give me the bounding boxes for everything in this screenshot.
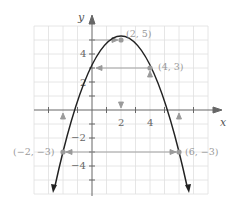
y-axis-label: y bbox=[77, 11, 85, 24]
arrow-right-icon bbox=[170, 150, 176, 155]
point-6-neg3 bbox=[176, 149, 181, 154]
arrow-left-icon bbox=[96, 66, 102, 71]
point-4-3 bbox=[147, 65, 152, 70]
parabola-graph: x y 2 4 4 2 −2 −4 (2, 5) (4, 3) (− bbox=[0, 0, 233, 203]
point-label: (6, −3) bbox=[185, 146, 219, 157]
x-tick-label: 4 bbox=[147, 117, 153, 128]
x-tick-label: 2 bbox=[118, 117, 124, 128]
arrow-up-icon bbox=[148, 71, 153, 77]
point-neg2-neg3 bbox=[60, 149, 65, 154]
y-tick-label: −2 bbox=[71, 132, 86, 143]
x-axis-label: x bbox=[220, 116, 227, 129]
y-axis-arrow-icon bbox=[89, 15, 95, 24]
point-label: (−2, −3) bbox=[13, 146, 54, 157]
curve-arrow-down-icon bbox=[51, 184, 57, 193]
arrow-up-icon bbox=[177, 113, 182, 119]
point-label: (2, 5) bbox=[126, 28, 152, 39]
arrow-left-icon bbox=[66, 150, 72, 155]
point-2-5 bbox=[118, 37, 123, 42]
x-axis-arrow-icon bbox=[213, 107, 222, 113]
arrow-up-icon bbox=[61, 113, 66, 119]
curve-arrow-down-icon bbox=[185, 184, 191, 193]
y-tick-label: −4 bbox=[71, 160, 86, 171]
point-label: (4, 3) bbox=[158, 61, 184, 72]
y-tick-label: 4 bbox=[80, 48, 86, 59]
arrow-down-icon bbox=[119, 102, 124, 108]
